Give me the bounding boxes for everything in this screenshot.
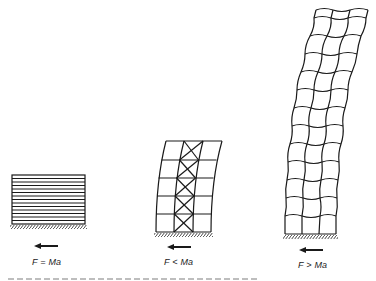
rigid-block: [12, 175, 85, 224]
force-arrow-1: [34, 243, 58, 249]
braced-frame: [156, 141, 222, 232]
force-arrow-3: [299, 247, 323, 253]
label-f-greater-than-ma: F > Ma: [298, 260, 327, 270]
flexible-tower: [285, 9, 368, 235]
label-f-equals-ma: F = Ma: [32, 257, 61, 267]
ground-hatch-3: [283, 235, 338, 239]
ground-hatch-1: [10, 225, 87, 229]
label-f-less-than-ma: F < Ma: [164, 257, 193, 267]
figure-caption-truncated: [8, 275, 258, 281]
diagram-canvas: [0, 0, 376, 281]
force-arrow-2: [167, 244, 191, 250]
ground-hatch-2: [154, 233, 213, 237]
caption-text-cut-off: [8, 278, 258, 280]
